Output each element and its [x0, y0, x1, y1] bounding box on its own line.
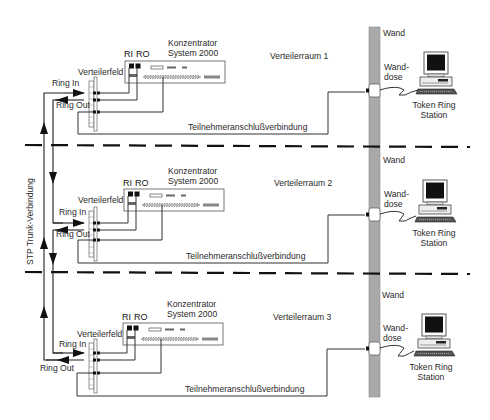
token-ring-wiring-diagram: STP Trunk-Verbindung Verteilerraum 1 Wan… [0, 0, 490, 420]
room-label: Verteilerraum 1 [270, 51, 328, 61]
station-label: Station [421, 110, 448, 120]
concentrator-device [124, 189, 224, 211]
ring-in-arrow-icon [73, 89, 85, 97]
concentrator-label: Konzentrator [168, 166, 217, 176]
link-label: Teilnehmeranschlußverbindung [185, 384, 305, 394]
trunk-arrow-down-icon [49, 253, 57, 265]
concentrator-label: Konzentrator [167, 299, 216, 309]
ring-in-arrow-icon [73, 219, 85, 227]
token-ring-station [415, 180, 456, 222]
station-label: Token Ring [410, 362, 453, 372]
port-ro-label: RO [135, 178, 149, 188]
station-label: Station [421, 238, 448, 248]
room-2: Verteilerraum 2 Wand Konzentrator System… [56, 155, 456, 263]
patch-panel-label: Verteilerfeld [78, 67, 124, 77]
ring-out-label: Ring Out [56, 229, 91, 239]
wall-label: Wand [383, 28, 405, 38]
concentrator-label: Konzentrator [168, 38, 217, 48]
patch-panel [89, 339, 97, 393]
port-ro-label: RO [134, 312, 148, 322]
room-label: Verteilerraum 3 [273, 312, 331, 322]
patch-panel [89, 77, 97, 131]
link-label: Teilnehmeranschlußverbindung [186, 251, 306, 261]
patch-panel [89, 207, 97, 261]
stp-trunk-label: STP Trunk-Verbindung [25, 178, 35, 265]
token-ring-station [416, 52, 457, 94]
concentrator-label: System 2000 [168, 48, 218, 58]
room-separator-2-3 [25, 272, 470, 274]
wall-label: Wand [383, 155, 405, 165]
ring-out-label: Ring Out [56, 100, 91, 110]
port-ri-label: RI [122, 312, 131, 322]
ring-out-label: Ring Out [40, 363, 75, 373]
concentrator-label: System 2000 [168, 176, 218, 186]
port-ro-label: RO [136, 49, 150, 59]
link-label: Teilnehmeranschlußverbindung [188, 122, 308, 132]
room-separator-1-2 [25, 145, 470, 147]
ring-in-label: Ring In [52, 78, 79, 88]
trunk-arrow-up-icon [40, 122, 48, 134]
station-label: Token Ring [413, 228, 456, 238]
trunk-arrow-down-icon [49, 172, 57, 184]
patch-panel-label: Verteilerfeld [77, 329, 123, 339]
wall-label: Wand [382, 290, 404, 300]
wall-outlet [369, 84, 380, 97]
wall-outlet-label: Wand- [384, 189, 409, 199]
station-label: Token Ring [413, 100, 456, 110]
wall-outlet-label: dose [384, 72, 403, 82]
ring-in-label: Ring In [59, 339, 86, 349]
wall-outlet-label: Wand- [384, 62, 409, 72]
concentrator-device [123, 323, 223, 345]
station-label: Station [418, 372, 445, 382]
wall-outlet-label: dose [384, 199, 403, 209]
port-ri-label: RI [124, 49, 133, 59]
room-label: Verteilerraum 2 [274, 178, 332, 188]
trunk-arrow-up-icon [40, 306, 48, 318]
trunk-arrow-up-icon [40, 237, 48, 249]
wall-outlet [369, 342, 380, 355]
port-ri-label: RI [123, 178, 132, 188]
ring-in-label: Ring In [59, 207, 86, 217]
wall-outlet-label: dose [383, 333, 402, 343]
concentrator-label: System 2000 [167, 309, 217, 319]
wall-outlet [369, 208, 380, 221]
token-ring-station [414, 314, 455, 356]
room-1: Verteilerraum 1 Wand Konzentrator System… [52, 28, 457, 134]
patch-panel-label: Verteilerfeld [78, 195, 124, 205]
wall-outlet-label: Wand- [383, 323, 408, 333]
concentrator-device [125, 61, 225, 83]
room-3: Verteilerraum 3 Wand Konzentrator System… [40, 290, 455, 396]
ring-in-arrow-icon [73, 349, 85, 357]
